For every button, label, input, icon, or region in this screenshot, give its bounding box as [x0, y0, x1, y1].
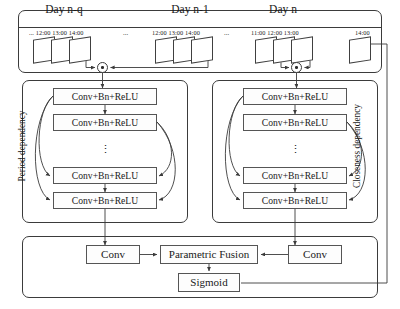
- merge-operator-period: [97, 62, 108, 73]
- period-layer-2: Conv+Bn+ReLU: [53, 114, 157, 131]
- sigmoid-box: Sigmoid: [178, 273, 240, 292]
- day-gap-ellipsis-2: ...: [224, 29, 229, 37]
- target-frame: [349, 36, 371, 63]
- closeness-layer-4: Conv+Bn+ReLU: [243, 192, 347, 209]
- merge-operator-closeness: [291, 62, 302, 73]
- closeness-layer-3: Conv+Bn+ReLU: [243, 167, 347, 184]
- closeness-layer-2: Conv+Bn+ReLU: [243, 114, 347, 131]
- input-frame: [69, 36, 91, 63]
- closeness-layers-ellipsis: ⋮: [289, 144, 301, 155]
- closeness-dependency-label: Closeness dependency: [352, 91, 364, 201]
- day-title-n-minus-1: Day n-1: [150, 1, 230, 17]
- time-labels-day-n-minus-q: ... 12:00 13:00 14:00: [29, 29, 84, 37]
- conv-right-box: Conv: [288, 245, 342, 264]
- day-gap-ellipsis-1: ...: [123, 29, 128, 37]
- period-layer-1: Conv+Bn+ReLU: [53, 88, 157, 105]
- day-title-n: Day n: [248, 1, 318, 17]
- input-frame: [291, 36, 313, 63]
- closeness-layer-1: Conv+Bn+ReLU: [243, 88, 347, 105]
- period-dependency-label: Period dependency: [17, 102, 29, 190]
- parametric-fusion-box: Parametric Fusion: [160, 245, 258, 264]
- period-layer-3: Conv+Bn+ReLU: [53, 167, 157, 184]
- conv-left-box: Conv: [86, 245, 140, 264]
- day-title-n-minus-q: Day n-q: [24, 1, 104, 17]
- period-layer-4: Conv+Bn+ReLU: [53, 192, 157, 209]
- input-frame: [191, 36, 213, 63]
- period-layers-ellipsis: ⋮: [99, 144, 111, 155]
- diagram-canvas: Day n-q Day n-1 Day n ... 12:00 13:00 14…: [0, 0, 400, 309]
